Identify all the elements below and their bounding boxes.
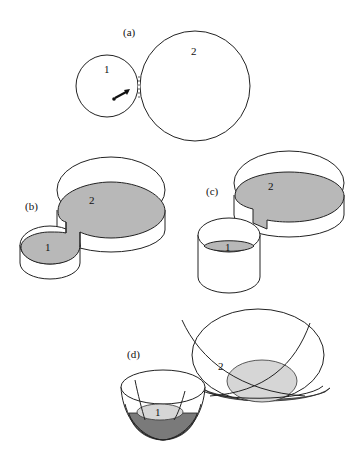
region-1-label: 1	[104, 63, 110, 75]
region-2-label: 2	[89, 194, 95, 206]
diagram-canvas: (a) 1 2 (b) 1 2 (c)	[0, 0, 360, 453]
bowl-1-rim	[121, 370, 205, 404]
panel-c: (c) 1 2	[198, 151, 344, 293]
panel-b-label: (b)	[25, 200, 38, 213]
panel-a: (a) 1 2	[76, 26, 250, 141]
arrow-icon	[112, 89, 130, 101]
panel-d: (d) 2 1	[121, 309, 330, 440]
region-2-label: 2	[191, 45, 197, 57]
panel-d-label: (d)	[127, 348, 140, 361]
panel-b: (b) 1 2	[20, 157, 165, 279]
region-1-label: 1	[155, 406, 161, 418]
panel-c-label: (c)	[206, 185, 219, 198]
panel-a-label: (a)	[123, 26, 136, 39]
region-2-label: 2	[268, 180, 274, 192]
region-2-label: 2	[218, 360, 224, 372]
region-1-label: 1	[225, 241, 231, 253]
bowl-2-fluid	[227, 360, 297, 402]
region-1-label: 1	[45, 241, 51, 253]
